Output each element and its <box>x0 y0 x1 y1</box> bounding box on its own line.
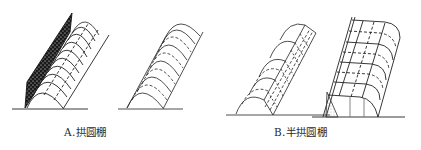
caption-a-arch-shed: A.拱圆棚 <box>64 124 106 139</box>
caption-b-half-arch-shed: B.半拱圆棚 <box>274 124 327 139</box>
panel-a1-arch-shed-covered <box>12 13 109 109</box>
panel-b2-half-arch-shed-wall <box>312 17 405 117</box>
panel-a2-arch-shed-frame <box>118 24 203 109</box>
panel-b1-half-arch-shed <box>226 24 330 115</box>
